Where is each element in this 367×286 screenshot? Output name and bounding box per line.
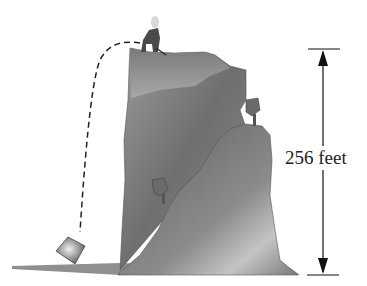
- height-label: 256 feet: [285, 146, 347, 170]
- person-on-cliff: [141, 16, 166, 55]
- falling-rock: [56, 237, 85, 264]
- tree-upper-right: [246, 98, 260, 126]
- cliff-illustration: [0, 0, 367, 286]
